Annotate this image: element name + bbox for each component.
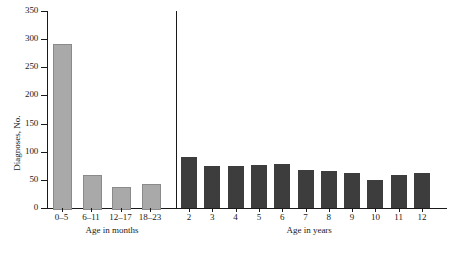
bar-years-3: [204, 166, 220, 208]
y-axis-tick: [41, 39, 47, 40]
y-axis-tick-label: 300: [12, 34, 38, 43]
x-axis-tick-label: 12–17: [105, 212, 137, 222]
y-axis-tick: [41, 208, 47, 209]
bar-months-12–17: [112, 187, 131, 210]
bar-chart-figure: Diagnoses, No. 050100150200250300350 0–5…: [0, 0, 455, 261]
y-axis-tick-label: 100: [12, 147, 38, 156]
bar-years-7: [298, 170, 314, 208]
x-axis-tick-label: 6–11: [75, 212, 107, 222]
bar-years-12: [414, 173, 430, 208]
bar-years-11: [391, 175, 407, 208]
bar-years-2: [181, 157, 197, 208]
bar-years-8: [321, 171, 337, 208]
x-axis-tick-label: 12: [406, 212, 438, 222]
bar-months-0–5: [53, 44, 72, 210]
bar-months-18–23: [142, 184, 161, 210]
y-axis-tick: [41, 180, 47, 181]
group-label-months: Age in months: [43, 225, 181, 235]
group-divider-line: [176, 11, 177, 208]
group-label-years: Age in years: [228, 225, 391, 235]
y-axis-tick-label: 250: [12, 62, 38, 71]
bar-years-4: [228, 166, 244, 208]
y-axis-tick-label: 350: [12, 6, 38, 15]
y-axis-tick-label: 50: [12, 175, 38, 184]
x-axis-tick-label: 18–23: [134, 212, 166, 222]
y-axis-tick-label: 150: [12, 119, 38, 128]
y-axis-tick: [41, 124, 47, 125]
x-axis-line: [47, 208, 447, 209]
x-axis-tick-label: 0–5: [46, 212, 78, 222]
y-axis-tick: [41, 152, 47, 153]
bar-years-6: [274, 164, 290, 208]
bar-months-6–11: [83, 175, 102, 210]
bar-years-5: [251, 165, 267, 208]
y-axis-tick: [41, 11, 47, 12]
bar-years-9: [344, 173, 360, 208]
y-axis-tick: [41, 67, 47, 68]
y-axis-tick-label: 200: [12, 90, 38, 99]
y-axis-tick: [41, 95, 47, 96]
bar-years-10: [367, 180, 383, 208]
y-axis-tick-label: 0: [12, 203, 38, 212]
y-axis-line: [47, 11, 48, 208]
